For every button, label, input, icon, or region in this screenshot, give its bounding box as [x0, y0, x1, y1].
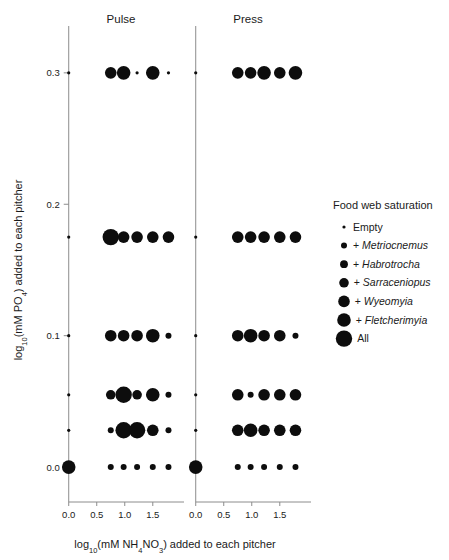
- data-point: [274, 424, 286, 436]
- legend-marker: [337, 313, 351, 327]
- data-point: [261, 464, 267, 470]
- data-point: [165, 392, 171, 398]
- data-point: [292, 333, 298, 339]
- x-tick-label: 1.5: [273, 509, 286, 520]
- data-point: [232, 67, 244, 79]
- legend: Food web saturation Empty+ Metriocnemus+…: [333, 199, 433, 347]
- bubble-plot-svg: Pulse Press 0.00.51.01.50.00.10.20.30.00…: [0, 0, 449, 560]
- data-point: [245, 67, 257, 79]
- x-tick-label: 1.0: [245, 509, 258, 520]
- data-point: [146, 388, 160, 402]
- legend-marker: [342, 225, 345, 228]
- data-point: [232, 231, 244, 243]
- data-point: [274, 389, 286, 401]
- legend-item-label: Empty: [353, 221, 384, 233]
- panel-title-press: Press: [233, 13, 263, 25]
- data-point: [244, 329, 258, 343]
- data-point: [134, 464, 140, 470]
- figure-root: Pulse Press 0.00.51.01.50.00.10.20.30.00…: [0, 0, 449, 560]
- data-point: [131, 330, 143, 342]
- y-tick-label: 0.2: [47, 199, 60, 210]
- data-point: [194, 334, 197, 337]
- data-point: [245, 231, 257, 243]
- legend-item-label: + Fletcherimyia: [356, 314, 428, 326]
- series-pulse: [62, 66, 174, 474]
- data-point: [105, 67, 117, 79]
- data-point: [277, 464, 283, 470]
- y-axis-title: log10(mM PO4) added to each pitcher: [12, 179, 29, 360]
- legend-item-label: + Habrotrocha: [353, 258, 420, 270]
- data-point: [165, 427, 171, 433]
- legend-marker: [338, 296, 350, 308]
- data-point: [103, 229, 119, 245]
- legend-item-label: + Wyeomyia: [355, 295, 413, 307]
- data-point: [290, 389, 302, 401]
- legend-title: Food web saturation: [333, 199, 433, 211]
- data-point: [290, 231, 302, 243]
- x-tick-label: 0.0: [62, 509, 75, 520]
- data-point: [244, 423, 258, 437]
- data-point: [132, 390, 142, 400]
- y-tick-label: 0.3: [47, 67, 60, 78]
- data-point: [135, 71, 138, 74]
- legend-marker: [341, 243, 347, 249]
- data-point: [62, 460, 76, 474]
- data-point: [147, 424, 159, 436]
- data-point: [150, 464, 156, 470]
- data-point: [108, 427, 114, 433]
- data-point: [129, 422, 145, 438]
- y-tick-label: 0.1: [47, 330, 60, 341]
- x-tick-label: 0.5: [90, 509, 103, 520]
- data-point: [274, 330, 286, 342]
- data-point: [274, 67, 286, 79]
- data-point: [105, 330, 117, 342]
- data-point: [258, 424, 270, 436]
- data-point: [194, 393, 197, 396]
- data-point: [194, 236, 197, 239]
- data-point: [248, 392, 254, 398]
- x-tick-label: 1.5: [146, 509, 159, 520]
- legend-marker: [339, 278, 349, 288]
- legend-marker: [336, 330, 352, 346]
- data-point: [194, 71, 197, 74]
- data-point: [163, 231, 175, 243]
- data-point: [118, 231, 130, 243]
- axes-layer: [64, 26, 311, 506]
- data-point: [258, 330, 270, 342]
- data-point: [146, 66, 160, 80]
- data-point: [131, 231, 143, 243]
- data-point: [115, 387, 131, 403]
- legend-item-label: + Metriocnemus: [353, 239, 429, 251]
- legend-marker: [340, 260, 348, 268]
- data-point: [67, 429, 70, 432]
- data-point: [189, 460, 203, 474]
- data-point: [165, 464, 171, 470]
- data-point: [67, 71, 70, 74]
- data-point: [235, 464, 241, 470]
- data-point: [165, 333, 171, 339]
- data-point: [117, 66, 131, 80]
- x-tick-label: 0.5: [217, 509, 230, 520]
- panel-title-pulse: Pulse: [107, 13, 136, 25]
- data-point: [290, 424, 302, 436]
- data-point: [167, 71, 170, 74]
- data-point: [67, 393, 70, 396]
- data-point: [232, 424, 244, 436]
- data-point: [146, 329, 160, 343]
- data-point: [289, 66, 303, 80]
- data-point: [67, 236, 70, 239]
- series-press: [189, 66, 302, 474]
- data-point: [258, 389, 270, 401]
- legend-item-label: + Sarraceniopus: [354, 276, 432, 288]
- data-point: [121, 464, 127, 470]
- data-point: [67, 334, 70, 337]
- data-point: [232, 389, 244, 401]
- x-axis-title: log10(mM NH4NO3) added to each pitcher: [74, 538, 276, 555]
- data-point: [257, 66, 271, 80]
- data-point: [108, 464, 114, 470]
- data-point: [258, 231, 270, 243]
- x-tick-label: 0.0: [189, 509, 202, 520]
- y-tick-label: 0.0: [47, 462, 60, 473]
- data-point: [147, 231, 159, 243]
- data-point: [106, 390, 116, 400]
